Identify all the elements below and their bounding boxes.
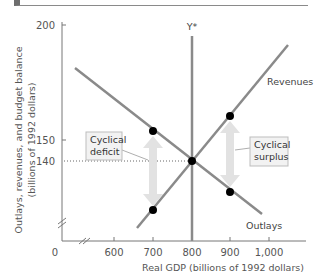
point-800-140: [188, 157, 196, 165]
y-tick-140: 140: [36, 156, 55, 167]
surplus-label-line1: Cyclical: [254, 139, 290, 150]
surplus-label-line2: surplus: [254, 151, 289, 162]
point-900-150: [226, 112, 234, 120]
x-tick-700: 700: [143, 247, 162, 258]
y-tick-150: 150: [36, 135, 55, 146]
y-axis-title-line1: Outlays, revenues, and budget balance: [13, 46, 24, 233]
x-tick-600: 600: [104, 247, 123, 258]
point-700-150: [149, 127, 157, 135]
x-axis: [62, 237, 306, 244]
point-700-130: [149, 206, 157, 214]
deficit-label-line2: deficit: [90, 146, 120, 157]
deficit-leader-line: [122, 150, 148, 160]
x-tick-800: 800: [182, 247, 201, 258]
y-tick-200: 200: [36, 20, 55, 31]
surplus-arrow: [220, 121, 240, 187]
deficit-arrow: [143, 136, 163, 206]
deficit-label-line1: Cyclical: [90, 134, 126, 145]
outlays-label: Outlays: [246, 220, 282, 231]
x-tick-1000: 1,000: [255, 247, 284, 258]
chart-canvas: Outlays, revenues, and budget balance (b…: [0, 0, 318, 278]
x-tick-0: 0: [52, 247, 58, 258]
surplus-leader-line: [235, 148, 250, 150]
y-axis: [58, 22, 66, 241]
x-axis-title: Real GDP (billions of 1992 dollars): [142, 262, 304, 273]
revenues-label: Revenues: [267, 76, 313, 87]
point-900-130: [226, 188, 234, 196]
potential-gdp-label: Y*: [186, 21, 198, 32]
x-tick-900: 900: [220, 247, 239, 258]
